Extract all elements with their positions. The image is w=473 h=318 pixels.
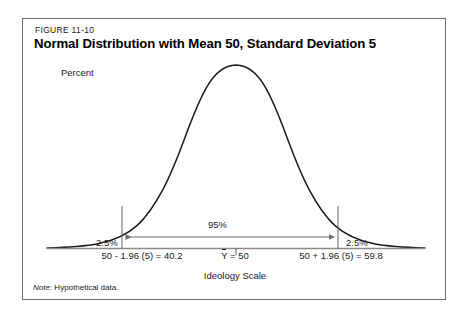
y-axis-label: Percent	[61, 67, 94, 78]
left-tail-percent-label: 2.5%	[96, 237, 118, 248]
chart-plot-area: Percent Ideology Scale 2.5% 2.5% 95% 50 …	[23, 19, 447, 301]
x-axis-label: Ideology Scale	[23, 270, 447, 281]
upper-bound-label: 50 + 1.96 (5) = 59.8	[261, 250, 421, 261]
figure-note-prefix: Note:	[33, 283, 52, 292]
bell-curve-path	[47, 65, 425, 248]
confidence-interval-percent-label: 95%	[208, 219, 227, 230]
figure-note: Note: Hypothetical data.	[33, 283, 118, 292]
mean-value: = 50	[230, 250, 249, 261]
mean-symbol-ybar: Y	[221, 250, 227, 261]
figure-note-text: Hypothetical data.	[54, 283, 118, 292]
right-tail-percent-label: 2.5%	[346, 237, 368, 248]
figure-frame: FIGURE 11-10 Normal Distribution with Me…	[22, 18, 446, 300]
